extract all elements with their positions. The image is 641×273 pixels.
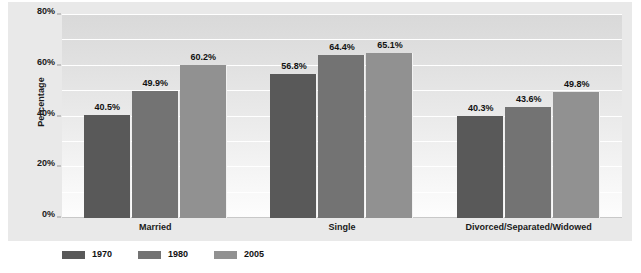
bar[interactable] bbox=[132, 91, 179, 218]
bar-slot: 65.1% bbox=[366, 15, 413, 218]
bar-group: 56.8%64.4%65.1% bbox=[249, 15, 436, 218]
bar-slot: 60.2% bbox=[180, 15, 227, 218]
bar-slot: 49.8% bbox=[553, 15, 600, 218]
bar[interactable] bbox=[270, 74, 317, 218]
y-axis-tick-label: 80% bbox=[37, 6, 55, 16]
legend-swatch-icon bbox=[214, 251, 237, 259]
bar-chart: Percentage 0%20%40%60%80% 40.5%49.9%60.2… bbox=[0, 0, 641, 273]
chart-legend: 197019802005 bbox=[62, 250, 264, 259]
bar[interactable] bbox=[180, 65, 227, 218]
x-axis-category-label: Divorced/Separated/Widowed bbox=[435, 222, 622, 232]
x-axis-category-label: Single bbox=[249, 222, 436, 232]
y-axis-tick-label: 60% bbox=[37, 57, 55, 67]
x-axis-category-label: Married bbox=[62, 222, 249, 232]
bar-value-label: 49.8% bbox=[564, 79, 590, 89]
legend-label: 1980 bbox=[168, 250, 188, 259]
bar-slot: 40.3% bbox=[457, 15, 504, 218]
legend-swatch-icon bbox=[62, 251, 85, 259]
bar-slot: 49.9% bbox=[132, 15, 179, 218]
bar-value-label: 56.8% bbox=[281, 61, 307, 71]
bar[interactable] bbox=[84, 115, 131, 218]
bar-value-label: 40.3% bbox=[468, 103, 494, 113]
legend-item[interactable]: 1980 bbox=[138, 250, 188, 259]
legend-label: 1970 bbox=[92, 250, 112, 259]
y-axis-tick-mark bbox=[57, 115, 61, 116]
bar[interactable] bbox=[505, 107, 552, 218]
chart-frame: Percentage 0%20%40%60%80% 40.5%49.9%60.2… bbox=[8, 2, 632, 241]
y-axis-tick-label: 20% bbox=[37, 158, 55, 168]
bar-group: 40.3%43.6%49.8% bbox=[435, 15, 622, 218]
bar-value-label: 60.2% bbox=[191, 52, 217, 62]
legend-swatch-icon bbox=[138, 251, 161, 259]
bar[interactable] bbox=[553, 92, 600, 218]
legend-item[interactable]: 1970 bbox=[62, 250, 112, 259]
bar-group: 40.5%49.9%60.2% bbox=[62, 15, 249, 218]
bar[interactable] bbox=[457, 116, 504, 218]
y-axis-tick-label: 40% bbox=[37, 108, 55, 118]
bar-value-label: 64.4% bbox=[329, 42, 355, 52]
y-axis-tick-mark bbox=[57, 14, 61, 15]
y-axis-tick-mark bbox=[57, 64, 61, 65]
bar-slot: 56.8% bbox=[270, 15, 317, 218]
legend-item[interactable]: 2005 bbox=[214, 250, 264, 259]
bar-value-label: 40.5% bbox=[95, 102, 121, 112]
y-axis-tick-label: 0% bbox=[42, 209, 55, 219]
bar-value-label: 49.9% bbox=[143, 78, 169, 88]
bar-groups: 40.5%49.9%60.2%56.8%64.4%65.1%40.3%43.6%… bbox=[62, 15, 622, 218]
y-axis-tick-mark bbox=[57, 166, 61, 167]
legend-label: 2005 bbox=[244, 250, 264, 259]
bar-value-label: 65.1% bbox=[377, 40, 403, 50]
bar-slot: 64.4% bbox=[318, 15, 365, 218]
bar[interactable] bbox=[366, 53, 413, 218]
bar[interactable] bbox=[318, 55, 365, 218]
bar-slot: 40.5% bbox=[84, 15, 131, 218]
bar-slot: 43.6% bbox=[505, 15, 552, 218]
plot-area: 0%20%40%60%80% 40.5%49.9%60.2%56.8%64.4%… bbox=[62, 15, 622, 218]
bar-value-label: 43.6% bbox=[516, 94, 542, 104]
y-axis-tick-mark bbox=[57, 217, 61, 218]
